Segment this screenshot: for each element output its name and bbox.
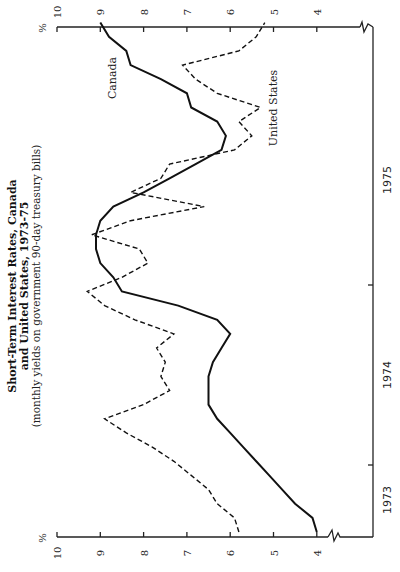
time-axis bbox=[368, 27, 373, 537]
chart-subtitle: (monthly yields on government 90-day tre… bbox=[30, 145, 42, 428]
series-canada bbox=[96, 23, 317, 532]
percent-label-top: % bbox=[37, 23, 48, 33]
tick-label: 9 bbox=[95, 9, 106, 15]
tick-label: 7 bbox=[182, 550, 193, 556]
year-label-1973: 1973 bbox=[381, 486, 394, 514]
tick-label: 10 bbox=[52, 6, 63, 19]
tick-label: 5 bbox=[269, 9, 280, 15]
series-label-canada: Canada bbox=[106, 56, 119, 99]
tick-label: 8 bbox=[139, 9, 150, 15]
interest-rate-chart: Short-Term Interest Rates, Canada and Un… bbox=[0, 0, 400, 572]
value-ticks-top: 10987654 bbox=[52, 6, 323, 32]
value-axis-bottom bbox=[57, 530, 373, 541]
percent-label-bottom: % bbox=[37, 533, 48, 543]
series-label-united-states: United States bbox=[267, 69, 280, 146]
year-label-1975: 1975 bbox=[381, 166, 394, 194]
year-label-1974: 1974 bbox=[381, 361, 394, 389]
chart-title: Short-Term Interest Rates, Canada and Un… bbox=[6, 145, 42, 428]
value-ticks-bottom: 10987654 bbox=[52, 532, 323, 559]
tick-label: 6 bbox=[225, 9, 236, 15]
tick-label: 6 bbox=[225, 550, 236, 556]
tick-label: 10 bbox=[52, 547, 63, 560]
svg-text:(monthly yields on government: (monthly yields on government 90-day tre… bbox=[30, 145, 42, 428]
tick-label: 4 bbox=[312, 9, 323, 15]
tick-label: 5 bbox=[269, 550, 280, 556]
tick-label: 7 bbox=[182, 9, 193, 15]
tick-label: 4 bbox=[312, 550, 323, 556]
tick-label: 9 bbox=[95, 550, 106, 556]
tick-label: 8 bbox=[139, 550, 150, 556]
